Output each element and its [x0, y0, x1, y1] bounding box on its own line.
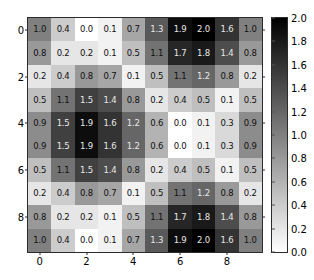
heatmap-cell-label: 0.1 [103, 49, 116, 58]
heatmap-cell: 0.1 [192, 112, 215, 135]
y-axis-tick-label: 0 [18, 24, 24, 35]
x-axis-tick-label: 6 [177, 256, 183, 267]
heatmap-cell: 0.5 [192, 88, 215, 111]
heatmap-cell: 1.2 [192, 65, 215, 88]
y-axis-tick-mark [25, 216, 28, 217]
colorbar-tick-mark [272, 64, 275, 65]
heatmap-cell-label: 0.4 [57, 72, 70, 81]
x-axis-tick-label: 0 [37, 256, 43, 267]
heatmap-cell: 0.4 [51, 18, 74, 41]
heatmap-cell-label: 0.4 [174, 96, 187, 105]
heatmap-cell: 0.7 [122, 229, 145, 252]
heatmap-cell: 0.2 [145, 158, 168, 181]
heatmap-cell: 0.1 [98, 18, 121, 41]
heatmap-cell: 0.7 [98, 182, 121, 205]
heatmap-cell: 1.6 [98, 112, 121, 135]
heatmap-cell: 1.4 [215, 41, 238, 64]
heatmap-cell-label: 1.2 [127, 142, 140, 151]
heatmap-cell: 0.9 [239, 135, 262, 158]
heatmap-cell-label: 0.6 [150, 119, 163, 128]
x-axis-tick-mark [133, 252, 134, 255]
heatmap-cell: 0.7 [98, 65, 121, 88]
heatmap-cell-label: 1.1 [150, 49, 163, 58]
heatmap-cell-label: 1.2 [197, 189, 210, 198]
x-axis-tick-mark [226, 252, 227, 255]
heatmap-cell: 0.2 [28, 65, 51, 88]
heatmap-cell: 0.8 [239, 205, 262, 228]
heatmap-cell: 0.1 [98, 229, 121, 252]
heatmap-cell-label: 1.1 [174, 72, 187, 81]
heatmap-cell-label: 0.3 [220, 142, 233, 151]
heatmap-cell: 0.4 [168, 158, 191, 181]
colorbar-tick-mark [272, 135, 275, 136]
colorbar-tick-mark [272, 252, 275, 253]
heatmap-cell-label: 0.2 [33, 72, 46, 81]
heatmap-cell: 0.6 [145, 112, 168, 135]
x-axis-tick-label: 8 [224, 256, 230, 267]
heatmap-cell: 0.8 [122, 88, 145, 111]
heatmap-cell-label: 2.0 [197, 236, 210, 245]
heatmap-cell: 1.5 [51, 135, 74, 158]
heatmap-cell: 1.7 [168, 205, 191, 228]
heatmap-cell-label: 1.9 [80, 119, 93, 128]
x-axis-tick-label: 2 [83, 256, 89, 267]
heatmap-cell-label: 1.4 [220, 213, 233, 222]
figure-canvas: 1.00.40.00.10.71.31.92.01.61.00.80.20.20… [0, 0, 314, 280]
colorbar-tick-mark [272, 18, 275, 19]
heatmap-cell-label: 0.5 [197, 96, 210, 105]
heatmap-cell: 1.0 [239, 229, 262, 252]
heatmap-cell: 1.2 [122, 135, 145, 158]
colorbar-tick-mark [272, 228, 275, 229]
heatmap-cell-label: 0.2 [244, 189, 257, 198]
heatmap-cell-label: 1.8 [197, 49, 210, 58]
heatmap-cell: 1.3 [145, 229, 168, 252]
heatmap-cell-label: 0.2 [244, 72, 257, 81]
heatmap-cell: 1.2 [192, 182, 215, 205]
heatmap-cell-label: 0.9 [244, 142, 257, 151]
heatmap-cell: 0.2 [145, 88, 168, 111]
heatmap-cell: 0.5 [145, 182, 168, 205]
heatmap-cell-label: 0.5 [127, 213, 140, 222]
heatmap-cell: 0.1 [215, 88, 238, 111]
heatmap-cell: 1.5 [51, 112, 74, 135]
heatmap-cell-label: 1.6 [103, 119, 116, 128]
x-axis-tick-mark [39, 252, 40, 255]
heatmap-cell-label: 1.4 [103, 166, 116, 175]
heatmap-cell: 0.8 [28, 41, 51, 64]
heatmap-cell-label: 1.6 [220, 236, 233, 245]
heatmap-cell-label: 0.1 [127, 189, 140, 198]
heatmap-cell-label: 1.1 [174, 189, 187, 198]
heatmap-cell: 1.4 [215, 205, 238, 228]
heatmap-cell: 0.4 [168, 88, 191, 111]
heatmap-cell: 1.1 [51, 158, 74, 181]
y-axis-tick-label: 8 [18, 211, 24, 222]
heatmap-cell-label: 1.1 [150, 213, 163, 222]
heatmap-cell-label: 0.2 [150, 166, 163, 175]
heatmap-cell: 1.6 [98, 135, 121, 158]
heatmap-cell: 0.5 [122, 205, 145, 228]
heatmap-cell-label: 1.9 [174, 236, 187, 245]
heatmap-cell: 0.2 [51, 41, 74, 64]
x-axis-tick-mark [86, 252, 87, 255]
colorbar-tick-label: 2.0 [291, 13, 307, 24]
y-axis-tick-mark [262, 216, 265, 217]
heatmap-cell-label: 1.6 [103, 142, 116, 151]
colorbar-tick-label: 0.8 [291, 153, 307, 164]
heatmap-cell-label: 0.8 [127, 166, 140, 175]
y-axis-tick-label: 4 [18, 118, 24, 129]
heatmap-cell: 0.8 [28, 205, 51, 228]
heatmap-cell: 0.5 [145, 65, 168, 88]
heatmap-cell: 1.0 [239, 18, 262, 41]
heatmap-cell-label: 0.7 [127, 236, 140, 245]
heatmap-cell-label: 0.8 [33, 49, 46, 58]
heatmap-cell-label: 0.9 [33, 119, 46, 128]
heatmap-cell-label: 0.1 [127, 72, 140, 81]
heatmap-cell-label: 0.8 [127, 96, 140, 105]
heatmap-cell: 0.1 [98, 205, 121, 228]
heatmap-cell: 1.1 [168, 65, 191, 88]
y-axis-tick-mark [25, 170, 28, 171]
heatmap-cell: 0.5 [239, 88, 262, 111]
heatmap-cell-label: 0.3 [220, 119, 233, 128]
colorbar-tick-label: 1.0 [291, 130, 307, 141]
y-axis-tick-mark [25, 76, 28, 77]
